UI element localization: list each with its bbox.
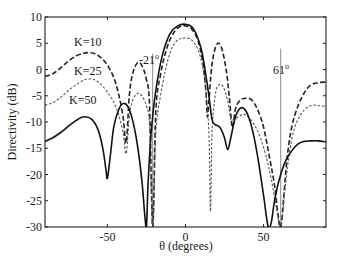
x-axis-title: θ (degrees): [159, 239, 212, 253]
y-tick-label: 10: [30, 10, 42, 24]
y-tick-label: -5: [32, 89, 42, 103]
y-tick-label: -20: [26, 168, 42, 182]
label-k50: K=50: [69, 93, 96, 107]
y-tick-label: 5: [36, 36, 42, 50]
label-k25: K=25: [74, 64, 101, 78]
y-tick-label: 0: [36, 63, 42, 77]
annotation-61: 61o: [273, 62, 289, 77]
y-tick-label: -15: [26, 141, 42, 155]
y-axis-title: Directivity (dB): [5, 84, 19, 161]
series-layer: [45, 24, 326, 229]
y-tick-label: -30: [26, 220, 42, 234]
label-k10: K=10: [74, 35, 101, 49]
directivity-chart: 1050-5-10-15-20-25-30-50050 Directivity …: [0, 0, 337, 264]
y-tick-label: -25: [26, 194, 42, 208]
annotation-neg21: -21o: [139, 52, 159, 67]
y-tick-label: -10: [26, 115, 42, 129]
x-tick-label: 50: [258, 230, 270, 244]
x-tick-label: -50: [99, 230, 115, 244]
annotation-61-text: 61o: [273, 62, 289, 77]
annotation-neg21-text: -21o: [139, 52, 159, 67]
